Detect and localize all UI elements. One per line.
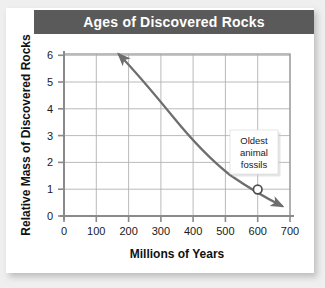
x-tick-label: 500 (216, 225, 234, 237)
chart-page: Ages of Discovered Rocks (0, 0, 325, 288)
y-tick-label: 5 (47, 76, 53, 88)
x-tick-label: 0 (61, 225, 67, 237)
data-point-marker-oldest-animal-fossils (253, 185, 262, 194)
x-tick-label: 300 (152, 225, 170, 237)
x-tick-label: 400 (184, 225, 202, 237)
annotation-line-1: Oldest (240, 135, 268, 146)
x-axis-title: Millions of Years (130, 247, 225, 261)
x-tick-label: 200 (119, 225, 137, 237)
x-tick-label: 100 (87, 225, 105, 237)
y-tick-label: 1 (47, 183, 53, 195)
chart-card: Ages of Discovered Rocks (6, 8, 314, 273)
chart-title: Ages of Discovered Rocks (83, 14, 264, 30)
chart-plot: 0 1 2 3 4 5 6 0 100 200 300 400 500 600 … (6, 34, 314, 273)
annotation-callout: Oldest animal fossils (230, 130, 281, 177)
y-axis-title: Relative Mass of Discovered Rocks (19, 34, 33, 236)
y-tick-label: 0 (47, 210, 53, 222)
y-tick-label: 4 (47, 103, 53, 115)
x-tick-label: 600 (249, 225, 267, 237)
chart-title-banner: Ages of Discovered Rocks (34, 10, 314, 34)
y-tick-label: 3 (47, 130, 53, 142)
y-tick-label: 6 (47, 49, 53, 61)
x-tick-label: 700 (281, 225, 299, 237)
y-axis-tick-labels: 0 1 2 3 4 5 6 (47, 49, 53, 222)
annotation-line-2: animal (240, 147, 268, 158)
x-axis-tick-labels: 0 100 200 300 400 500 600 700 (61, 225, 299, 237)
y-tick-label: 2 (47, 156, 53, 168)
annotation-line-3: fossils (241, 159, 268, 170)
